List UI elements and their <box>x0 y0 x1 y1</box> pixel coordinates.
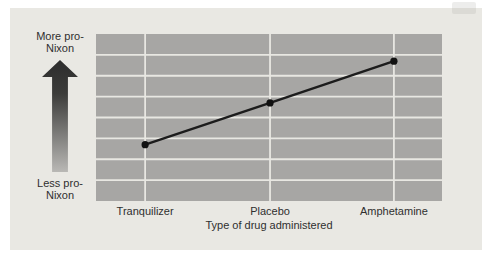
x-tick-label-tranquilizer: Tranquilizer <box>117 205 174 217</box>
textbook-figure: More pro-Nixon Less pro-Nixon Tranquiliz… <box>0 0 482 263</box>
y-axis-high-label: More pro-Nixon <box>24 30 96 54</box>
data-point-marker <box>142 141 149 148</box>
y-axis-low-label: Less pro-Nixon <box>24 177 96 201</box>
plot-area <box>96 34 442 201</box>
x-tick-label-placebo: Placebo <box>250 205 290 217</box>
x-tick-label-amphetamine: Amphetamine <box>360 205 428 217</box>
x-tick-labels: TranquilizerPlaceboAmphetamine <box>96 205 442 219</box>
data-point-marker <box>390 58 397 65</box>
data-point-marker <box>266 99 273 106</box>
x-axis-title: Type of drug administered <box>96 219 442 231</box>
page-print-artifact <box>452 2 476 14</box>
